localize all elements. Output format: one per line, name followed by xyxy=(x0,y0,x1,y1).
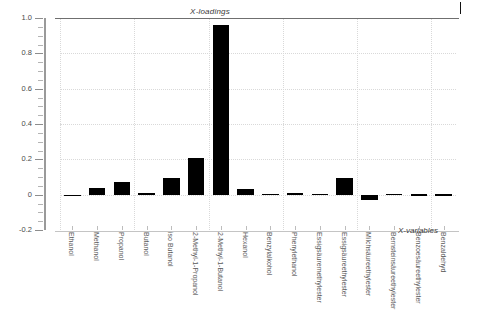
y-axis-minor-tick xyxy=(38,133,43,134)
x-axis-tick xyxy=(196,226,197,230)
gridline-horizontal xyxy=(60,124,456,125)
y-axis-minor-tick xyxy=(38,115,43,116)
x-axis-tick xyxy=(320,226,321,230)
plot-area xyxy=(60,18,456,230)
x-axis-tick-label: 2-Methyl-1-Propanol xyxy=(192,232,199,295)
gridline-horizontal xyxy=(60,159,456,160)
x-axis-tick xyxy=(122,226,123,230)
y-axis-tick-label: 0.8 xyxy=(2,49,32,57)
y-axis-minor-tick xyxy=(38,80,43,81)
y-axis-tick xyxy=(35,18,43,19)
x-axis-tick-label: Butanol xyxy=(143,232,150,256)
x-axis-tick-label: Benzaldehyd xyxy=(440,232,447,272)
y-axis-tick xyxy=(35,230,43,231)
x-axis-title: X-variables xyxy=(398,226,438,235)
x-axis-tick xyxy=(147,226,148,230)
bar xyxy=(361,195,377,201)
y-axis-tick-label: 0.2 xyxy=(2,155,32,163)
bar xyxy=(287,193,303,195)
chart-title: X-loadings xyxy=(0,7,420,16)
x-axis-tick-label: Ethanol xyxy=(68,232,75,256)
x-axis-tick-label: Essigsäureethylester xyxy=(341,232,348,297)
gridline-vertical xyxy=(60,18,61,230)
y-axis-tick-label: 0.4 xyxy=(2,120,32,128)
y-axis-tick xyxy=(35,53,43,54)
bar xyxy=(163,178,179,194)
y-axis-minor-tick xyxy=(38,186,43,187)
y-axis-minor-tick xyxy=(38,71,43,72)
gridline-vertical xyxy=(431,18,432,230)
gridline-horizontal xyxy=(60,53,456,54)
x-axis-tick-label: Benzylalkohol xyxy=(266,232,273,275)
y-axis-minor-tick xyxy=(38,142,43,143)
y-axis-minor-tick xyxy=(38,204,43,205)
gridline-vertical xyxy=(134,18,135,230)
y-axis-tick-label: 1.0 xyxy=(2,14,32,22)
x-axis-tick xyxy=(97,226,98,230)
x-axis-tick-label: Methanol xyxy=(93,232,100,261)
zero-baseline xyxy=(55,18,459,19)
y-axis-minor-tick xyxy=(38,168,43,169)
y-axis-minor-tick xyxy=(38,36,43,37)
bar xyxy=(138,193,154,195)
gridline-vertical xyxy=(209,18,210,230)
y-axis-minor-tick xyxy=(38,27,43,28)
bar xyxy=(411,194,427,195)
gridline-vertical xyxy=(357,18,358,230)
x-axis-tick xyxy=(444,226,445,230)
y-axis-minor-tick xyxy=(38,45,43,46)
bar xyxy=(213,25,229,194)
y-axis-tick xyxy=(35,159,43,160)
x-axis-tick-label: Benzoesäureethylester xyxy=(415,232,422,304)
x-axis-tick xyxy=(369,226,370,230)
x-axis-tick-label: Bernsteinsäureethylester xyxy=(390,232,397,309)
x-axis-tick-label: Hexanol xyxy=(242,232,249,258)
y-axis-tick xyxy=(35,89,43,90)
bar xyxy=(237,189,253,194)
bar xyxy=(188,158,204,195)
x-axis-tick-label: Milchsäureethylester xyxy=(365,232,372,296)
bar xyxy=(114,182,130,195)
bar xyxy=(89,188,105,195)
y-axis-tick-label: -0.2 xyxy=(2,226,32,234)
bar xyxy=(386,194,402,195)
x-axis-tick xyxy=(345,226,346,230)
corner-tick-marker xyxy=(460,2,461,14)
y-axis-tick-label: 0.6 xyxy=(2,85,32,93)
x-axis-tick xyxy=(270,226,271,230)
gridline-horizontal xyxy=(60,89,456,90)
x-axis-tick xyxy=(171,226,172,230)
y-axis-minor-tick xyxy=(38,151,43,152)
x-axis-tick-label: Essigsäuremethylester xyxy=(316,232,323,303)
y-axis-minor-tick xyxy=(38,212,43,213)
x-axis-tick xyxy=(394,226,395,230)
y-axis-minor-tick xyxy=(38,98,43,99)
x-axis-tick-label: 2-Methyl-1-Butanol xyxy=(217,232,224,291)
gridline-vertical xyxy=(283,18,284,230)
x-axis-tick xyxy=(221,226,222,230)
bar xyxy=(262,194,278,195)
x-axis-tick-label: iso Butanol xyxy=(167,232,174,267)
bar xyxy=(336,178,352,194)
bar xyxy=(64,195,80,196)
y-axis-minor-tick xyxy=(38,177,43,178)
x-axis-tick-label: Propanol xyxy=(118,232,125,260)
y-axis-minor-tick xyxy=(38,106,43,107)
chart-container: X-loadings -0.200.20.40.60.81.0 EthanolM… xyxy=(0,0,504,332)
x-axis-tick xyxy=(72,226,73,230)
x-axis-tick xyxy=(295,226,296,230)
y-axis-minor-tick xyxy=(38,62,43,63)
x-axis-tick xyxy=(246,226,247,230)
bar xyxy=(435,194,451,195)
x-axis-tick-labels: EthanolMethanolPropanolButanoliso Butano… xyxy=(60,232,456,328)
y-axis-spine xyxy=(44,18,46,230)
y-axis-tick xyxy=(35,195,43,196)
y-axis-minor-tick xyxy=(38,221,43,222)
bar xyxy=(312,194,328,195)
x-axis-tick-label: Phenylethanol xyxy=(291,232,298,276)
y-axis-tick-label: 0 xyxy=(2,191,32,199)
y-axis-tick xyxy=(35,124,43,125)
